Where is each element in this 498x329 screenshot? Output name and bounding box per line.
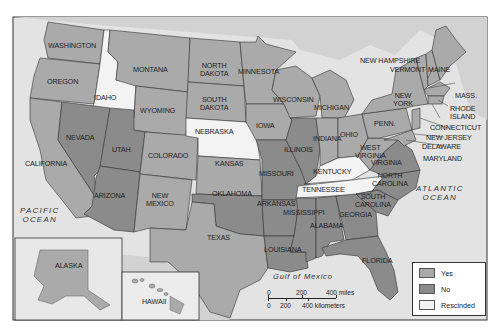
label-new-hampshire: NEW HAMPSHIRE — [360, 57, 420, 65]
scale-bar: 0 200 400 miles 0 200 400 kilometers — [266, 289, 356, 313]
label-michigan: MICHIGAN — [314, 104, 349, 112]
label-new-jersey: NEW JERSEY — [426, 134, 472, 142]
legend-label-rescinded: Rescinded — [441, 301, 475, 310]
legend-swatch-yes — [419, 268, 435, 278]
legend-item-rescinded: Rescinded — [419, 300, 475, 310]
label-california: CALIFORNIA — [25, 160, 67, 168]
label-mississippi: MISSISSIPPI — [283, 209, 325, 217]
label-pacific-ocean: PACIFICOCEAN — [20, 206, 59, 224]
label-nebraska: NEBRASKA — [195, 128, 233, 136]
scale-km-200: 200 — [280, 302, 291, 309]
label-north-dakota: NORTHDAKOTA — [200, 62, 228, 78]
map-legend: Yes No Rescinded — [412, 262, 486, 316]
label-missouri: MISSOURI — [259, 170, 294, 178]
label-new-york: NEWYORK — [393, 92, 413, 108]
scale-miles-400: 400 miles — [326, 289, 354, 296]
legend-item-no: No — [419, 284, 450, 294]
scale-km-0: 0 — [267, 302, 271, 309]
label-kentucky: KENTUCKY — [313, 168, 351, 176]
label-south-carolina: SOUTHCAROLINA — [355, 193, 391, 209]
label-rhode-island: RHODEISLAND — [450, 105, 475, 121]
label-iowa: IOWA — [256, 122, 275, 130]
label-north-carolina: NORTHCAROLINA — [372, 172, 408, 188]
label-illinois: ILLINOIS — [284, 146, 313, 154]
label-vermont: VERMONT — [390, 66, 425, 74]
label-delaware: DELAWARE — [422, 143, 461, 151]
label-montana: MONTANA — [133, 66, 168, 74]
label-nevada: NEVADA — [66, 134, 94, 142]
label-washington: WASHINGTON — [48, 42, 96, 50]
label-mass: MASS. — [455, 92, 477, 100]
label-arizona: ARIZONA — [94, 192, 125, 200]
label-louisiana: LOUISIANA — [264, 246, 301, 254]
scale-km-400: 400 kilometers — [302, 302, 345, 309]
label-virginia: VIRGINIA — [371, 159, 402, 167]
label-penn: PENN. — [374, 120, 395, 128]
label-kansas: KANSAS — [215, 160, 244, 168]
label-atlantic-ocean: ATLANTICOCEAN — [416, 184, 464, 202]
label-georgia: GEORGIA — [339, 211, 372, 219]
label-hawaii: HAWAII — [142, 298, 166, 306]
label-arkansas: ARKANSAS — [257, 200, 295, 208]
label-ohio: OHIO — [340, 131, 358, 139]
legend-label-no: No — [441, 285, 450, 294]
label-maine: MAINE — [428, 66, 450, 74]
legend-label-yes: Yes — [441, 269, 453, 278]
label-gulf-of-mexico: Gulf of Mexico — [273, 272, 333, 281]
state-connecticut-ri — [428, 96, 444, 104]
label-idaho: IDAHO — [94, 94, 116, 102]
label-south-dakota: SOUTHDAKOTA — [200, 96, 228, 112]
label-oregon: OREGON — [47, 78, 78, 86]
state-new-jersey — [412, 108, 420, 130]
label-utah: UTAH — [112, 146, 131, 154]
label-colorado: COLORADO — [148, 152, 188, 160]
legend-swatch-rescinded — [419, 300, 435, 310]
label-wisconsin: WISCONSIN — [273, 96, 314, 104]
label-connecticut: CONNECTICUT — [430, 124, 481, 132]
label-florida: FLORIDA — [362, 257, 392, 265]
label-new-mexico: NEWMEXICO — [146, 192, 174, 208]
label-minnesota: MINNESOTA — [238, 68, 279, 76]
legend-swatch-no — [419, 284, 435, 294]
label-tennessee: TENNESSEE — [302, 186, 345, 194]
label-indiana: INDIANA — [313, 135, 341, 143]
label-west-virginia: WESTVIRGINIA — [355, 144, 386, 160]
label-alabama: ALABAMA — [310, 222, 343, 230]
label-texas: TEXAS — [207, 234, 230, 242]
label-oklahoma: OKLAHOMA — [212, 190, 252, 198]
legend-item-yes: Yes — [419, 268, 453, 278]
label-alaska: ALASKA — [55, 262, 82, 270]
label-wyoming: WYOMING — [140, 107, 175, 115]
label-maryland: MARYLAND — [423, 155, 462, 163]
